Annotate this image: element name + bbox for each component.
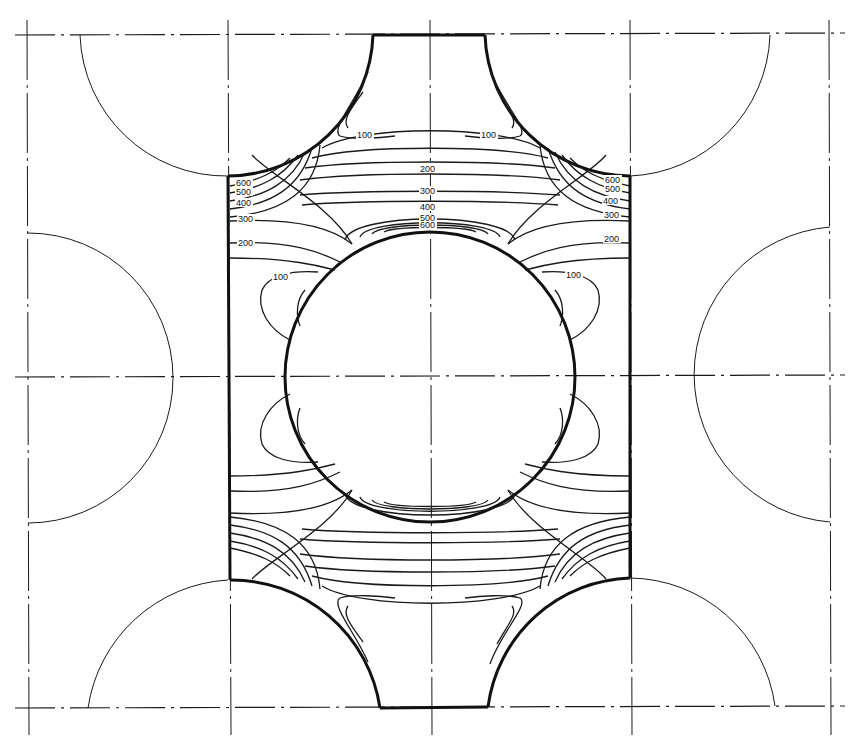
boundary-arc-bottom-left <box>230 580 380 708</box>
label-left-500: 500 <box>236 187 251 197</box>
label-center-300: 300 <box>420 186 435 196</box>
boundary-arc-top-left <box>228 35 373 176</box>
hole-top-left-outline <box>80 35 228 176</box>
hole-top-right-outline <box>630 35 770 176</box>
label-mid-right-100: 100 <box>566 270 581 280</box>
boundary-bottom <box>380 707 488 708</box>
contour-labels: 600 500 400 300 200 600 500 400 300 200 … <box>235 130 622 282</box>
hole-left-outline <box>28 233 173 523</box>
boundary-arc-bottom-right <box>488 578 630 707</box>
grid-line-v5 <box>829 20 831 735</box>
label-top-left-100: 100 <box>357 130 372 140</box>
label-left-400: 400 <box>236 198 251 208</box>
label-center-200: 200 <box>420 164 435 174</box>
label-right-200: 200 <box>604 234 619 244</box>
label-right-500: 500 <box>605 184 620 194</box>
label-mid-left-100: 100 <box>273 272 288 282</box>
label-left-200: 200 <box>238 238 253 248</box>
middle-centerline <box>15 375 845 377</box>
grid-line-v3 <box>430 20 432 735</box>
label-center-600: 600 <box>420 220 435 230</box>
boundary-left <box>228 176 230 580</box>
contours-lower <box>230 394 630 664</box>
label-top-right-100: 100 <box>481 130 496 140</box>
label-center-400: 400 <box>420 202 435 212</box>
label-right-400: 400 <box>603 196 618 206</box>
hole-bottom-right-outline <box>630 578 775 706</box>
contour-diagram: 600 500 400 300 200 600 500 400 300 200 … <box>0 0 852 750</box>
center-hole <box>285 232 575 522</box>
hole-bottom-left-outline <box>88 580 228 708</box>
label-right-300: 300 <box>604 210 619 220</box>
label-left-300: 300 <box>238 214 253 224</box>
